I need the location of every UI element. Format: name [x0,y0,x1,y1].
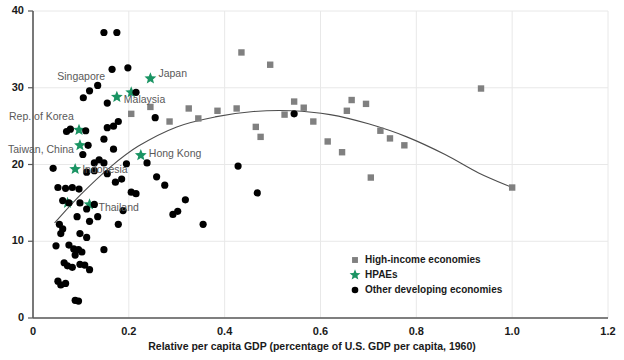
legend-markers [350,257,361,293]
legend-marker-circle [352,287,359,294]
data-point-circle [82,127,89,134]
data-point-circle [65,199,72,206]
data-point-square [344,108,350,114]
x-tick-label: 1.2 [583,325,624,337]
data-point-circle [85,142,92,149]
point-label-indonesia: Indonesia [82,163,128,175]
scatter-chart: 01020304000.20.40.60.81.01.2SingaporeJap… [0,0,624,360]
data-point-circle [79,151,86,158]
point-label-singapore: Singapore [57,70,105,82]
data-point-star [111,91,123,102]
data-point-circle [62,185,69,192]
data-point-circle [112,179,119,186]
data-point-circle [108,66,115,73]
data-point-circle [76,230,83,237]
x-axis-title: Relative per capita GDP (percentage of U… [0,340,624,352]
data-point-star [145,72,157,83]
data-point-square [478,85,484,91]
data-point-square [291,98,297,104]
plot-canvas [0,0,624,360]
data-point-square [368,174,374,180]
data-point-square [166,118,172,124]
legend-marker-star [350,269,361,279]
data-point-circle [54,184,61,191]
data-point-circle [75,298,82,305]
data-point-square [310,118,316,124]
x-tick-label: 0.4 [200,325,250,337]
data-point-square [387,135,393,141]
x-tick-label: 0.2 [104,325,154,337]
data-point-circle [86,218,93,225]
y-tick-label: 0 [0,311,24,323]
data-point-circle [104,124,111,131]
data-point-circle [104,100,111,107]
data-point-square [128,111,134,117]
data-point-square [509,184,515,190]
data-point-square [339,149,345,155]
x-tick-label: 1.0 [487,325,537,337]
point-label-taiwan-china: Taiwan, China [8,143,74,155]
data-point-circle [234,162,241,169]
data-point-square [257,134,263,140]
x-tick-label: 0 [8,325,58,337]
y-tick-label: 30 [0,81,24,93]
data-point-circle [78,248,85,255]
y-tick-label: 10 [0,234,24,246]
data-point-circle [291,110,298,117]
data-point-circle [69,264,76,271]
data-point-circle [86,87,93,94]
x-tick-label: 0.6 [296,325,346,337]
data-point-square [267,62,273,68]
data-point-circle [182,196,189,203]
data-point-circle [94,82,101,89]
data-point-circle [80,94,87,101]
data-point-circle [152,114,159,121]
data-point-circle [73,213,80,220]
data-point-square [301,105,307,111]
data-point-circle [67,126,74,133]
data-point-circle [115,221,122,228]
data-point-circle [110,123,117,130]
data-point-circle [110,146,117,153]
data-point-circle [86,266,93,273]
data-point-star [135,149,147,160]
data-point-circle [75,185,82,192]
data-point-square [233,105,239,111]
data-point-square [377,128,383,134]
data-point-square [186,105,192,111]
data-point-circle [83,205,90,212]
point-label-japan: Japan [158,67,187,79]
data-point-circle [132,190,139,197]
data-point-square [324,138,330,144]
y-tick-label: 40 [0,4,24,16]
data-point-circle [100,136,107,143]
data-point-square [348,97,354,103]
data-point-circle [57,230,64,237]
data-point-square [214,108,220,114]
y-tick-label: 20 [0,158,24,170]
data-point-square [195,115,201,121]
data-point-circle [100,29,107,36]
data-point-circle [83,234,90,241]
data-point-circle [69,184,76,191]
data-point-circle [76,199,83,206]
point-label-malaysia: Malaysia [124,93,165,105]
data-point-circle [100,246,107,253]
data-point-square [363,101,369,107]
data-point-circle [118,175,125,182]
data-point-star [74,139,86,150]
data-point-circle [200,221,207,228]
data-point-circle [52,242,59,249]
data-point-square [253,124,259,130]
data-point-circle [50,165,57,172]
data-point-circle [94,213,101,220]
legend-label-0: High-income economies [365,254,481,265]
data-point-circle [153,173,160,180]
data-point-circle [161,182,168,189]
data-point-circle [174,208,181,215]
data-point-circle [143,159,150,166]
data-point-circle [72,251,79,258]
point-label-thailand: Thailand [99,201,139,213]
data-point-circle [91,201,98,208]
legend-label-2: Other developing economies [365,284,502,295]
